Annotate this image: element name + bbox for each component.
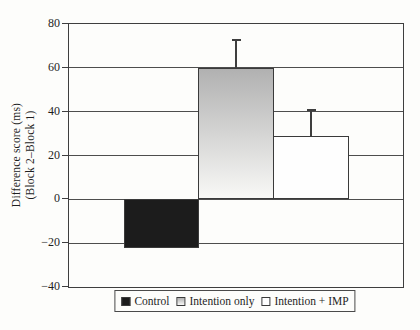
bar-intention-only — [198, 68, 274, 200]
y-ticklabel--40: −40 — [26, 280, 60, 292]
error-bar-bar-intention-imp — [310, 109, 312, 135]
legend-swatch-intention-only — [177, 297, 186, 306]
legend-item-intention-imp: Intention + IMP — [261, 295, 348, 307]
y-tickmark--20 — [62, 242, 68, 243]
y-axis-label-line1: Difference score (ms) — [9, 23, 23, 287]
legend-item-intention-only: Intention only — [177, 295, 255, 307]
legend-item-control: Control — [121, 295, 169, 307]
error-bar-cap-bar-intention-imp — [307, 109, 316, 111]
legend: Control Intention only Intention + IMP — [114, 290, 355, 312]
gridline-y-20 — [69, 243, 403, 244]
y-ticklabel-60: 60 — [26, 61, 60, 73]
y-tickmark-0 — [62, 198, 68, 199]
legend-label-intention-imp: Intention + IMP — [274, 295, 348, 307]
legend-swatch-intention-imp — [261, 297, 270, 306]
y-tickmark--40 — [62, 286, 68, 287]
error-bar-cap-bar-intention-only — [232, 39, 241, 41]
y-tickmark-80 — [62, 23, 68, 24]
error-bar-bar-intention-only — [235, 39, 237, 67]
legend-swatch-control — [121, 297, 130, 306]
legend-label-intention-only: Intention only — [190, 295, 255, 307]
y-tickmark-20 — [62, 155, 68, 156]
bar-control — [124, 199, 199, 247]
bar-intention-imp — [273, 136, 349, 200]
y-tickmark-40 — [62, 111, 68, 112]
y-ticklabel-80: 80 — [26, 17, 60, 29]
plot-area — [68, 23, 404, 288]
y-ticklabel--20: −20 — [26, 236, 60, 248]
legend-label-control: Control — [134, 295, 169, 307]
y-tickmark-60 — [62, 67, 68, 68]
y-ticklabel-40: 40 — [26, 105, 60, 117]
y-ticklabel-0: 0 — [26, 192, 60, 204]
bar-chart-figure: Difference score (ms) (Block 2–Block 1) … — [0, 0, 420, 330]
y-ticklabel-20: 20 — [26, 149, 60, 161]
